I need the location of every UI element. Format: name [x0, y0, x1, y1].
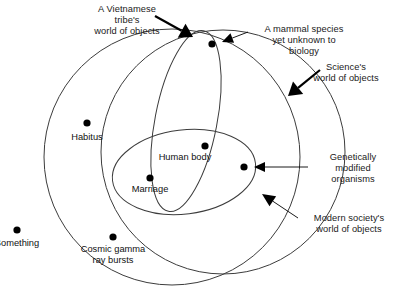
callout-text-science-callout: Science's world of objects: [293, 62, 399, 84]
node-dot-human-body[interactable]: [201, 142, 208, 149]
diagram-canvas: HabitusHuman bodyMarriageCosmic gamma ra…: [0, 0, 403, 295]
node-dot-something[interactable]: [13, 226, 20, 233]
habitus-label: Habitus: [27, 132, 147, 143]
marriage-label: Marriage: [90, 184, 210, 195]
callout-text-vietnamese-tribe-callout: A Vietnamese tribe's world of objects: [72, 4, 182, 38]
node-dot-mammal-species[interactable]: [208, 40, 215, 47]
node-dot-habitus[interactable]: [83, 119, 90, 126]
node-dot-gmo[interactable]: [240, 163, 247, 170]
something-label: Something: [0, 238, 77, 249]
node-dot-marriage[interactable]: [146, 174, 153, 181]
arrow-head-modern-society-callout: [262, 194, 276, 206]
node-dot-cosmic-gamma[interactable]: [109, 233, 116, 240]
human-body-label: Human body: [125, 152, 245, 163]
callout-text-mammal-species-callout: A mammal species yet unknown to biology: [250, 24, 358, 58]
callout-text-gmo-callout: Genetically modified organisms: [309, 152, 397, 186]
arrow-shaft-mammal-species-callout: [232, 32, 248, 38]
callout-text-modern-society-callout: Modern society's world of objects: [296, 213, 402, 235]
